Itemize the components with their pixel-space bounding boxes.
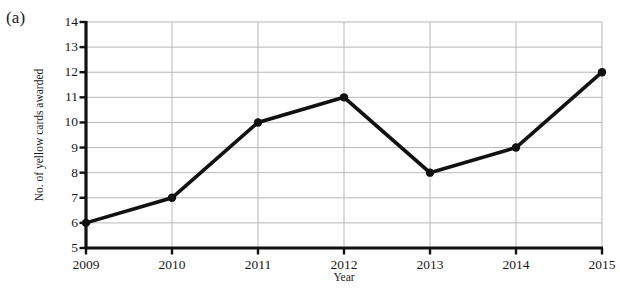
line-chart-plot [0, 0, 620, 293]
data-point-marker [82, 219, 90, 227]
data-point-marker [340, 93, 348, 101]
data-point-marker [168, 194, 176, 202]
data-point-marker [426, 168, 434, 176]
data-point-marker [512, 143, 520, 151]
figure-panel: (a) No. of yellow cards awarded Year 567… [0, 0, 620, 293]
data-point-marker [598, 68, 606, 76]
axis-tick-marks [80, 22, 603, 255]
data-point-marker [254, 118, 262, 126]
